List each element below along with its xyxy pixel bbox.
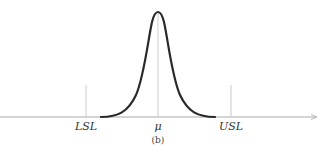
mean-label: μ (154, 120, 161, 133)
usl-label: USL (219, 120, 243, 133)
distribution-diagram: LSL μ USL (b) (0, 0, 324, 147)
figure-caption: (b) (152, 135, 165, 145)
lsl-label: LSL (74, 120, 97, 133)
